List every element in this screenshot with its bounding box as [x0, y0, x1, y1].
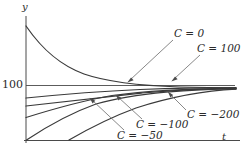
curve-label-c-minus-100: C = −100 [136, 119, 188, 130]
leader-line-c-0 [130, 40, 173, 80]
y-axis-label: y [22, 2, 28, 12]
leader-arrowhead-c-0 [127, 78, 133, 83]
curve-label-c-0: C = 0 [174, 28, 204, 39]
y-tick-label-100: 100 [2, 79, 23, 90]
curve-label-c-100: C = 100 [197, 43, 241, 54]
leader-line-c-minus-100 [118, 97, 142, 119]
leader-arrowhead-c-100 [171, 77, 177, 82]
t-axis-label: t [222, 132, 226, 142]
curve-label-c-minus-50: C = −50 [117, 130, 163, 141]
solution-curves-figure: y t 100 C = 0 C = 100 C = −200 C = −100 … [0, 0, 244, 152]
leader-line-c-100 [174, 55, 200, 79]
curve-label-c-minus-200: C = −200 [187, 109, 239, 120]
